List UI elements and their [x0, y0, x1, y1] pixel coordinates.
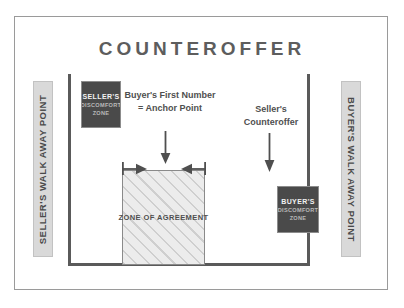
counteroffer-diagram: COUNTEROFFER SELLER'S WALK AWAY POINT BU… [0, 0, 404, 308]
buyer-discomfort-zone-box: BUYER'S DISCOMFORT ZONE [277, 186, 319, 233]
seller-discomfort-zone-box: SELLER'S DISCOMFORT ZONE [81, 81, 121, 128]
zone-left-inward-arrow-icon [122, 162, 148, 180]
seller-discomfort-line3: ZONE [93, 109, 110, 117]
page-title: COUNTEROFFER [0, 38, 404, 60]
buyer-walk-away-label: BUYER'S WALK AWAY POINT [346, 97, 357, 242]
buyer-anchor-annotation: Buyer's First Number = Anchor Point [124, 89, 216, 114]
buyer-walk-away-panel: BUYER'S WALK AWAY POINT [341, 81, 361, 257]
seller-counteroffer-annotation: Seller's Counteroffer [232, 103, 310, 128]
seller-discomfort-line2: DISCOMFORT [81, 101, 121, 109]
buyer-discomfort-line2: DISCOMFORT [278, 206, 319, 214]
counteroffer-down-arrow-icon [264, 133, 275, 177]
anchor-down-arrow-icon [160, 131, 171, 169]
seller-walk-away-panel: SELLER'S WALK AWAY POINT [33, 81, 53, 257]
zone-of-agreement-box: ZONE OF AGREEMENT [122, 170, 205, 265]
zone-of-agreement-label: ZONE OF AGREEMENT [119, 213, 209, 222]
buyer-discomfort-line3: ZONE [290, 214, 307, 222]
buyer-discomfort-line1: BUYER'S [281, 197, 315, 206]
seller-walk-away-label: SELLER'S WALK AWAY POINT [38, 94, 49, 244]
zone-right-inward-arrow-icon [180, 162, 206, 180]
bracket-left-arm [68, 74, 71, 266]
seller-discomfort-line1: SELLER'S [82, 92, 119, 101]
